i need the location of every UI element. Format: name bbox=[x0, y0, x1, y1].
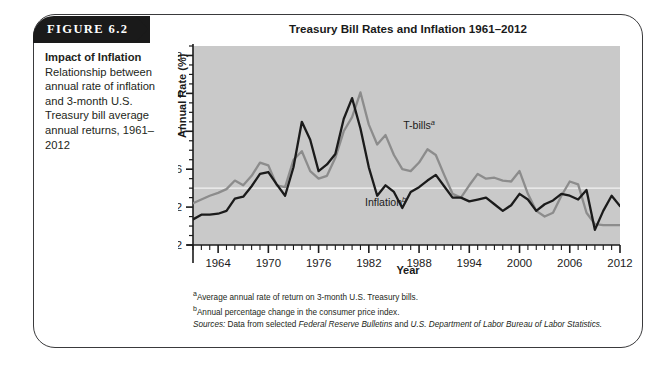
figure-number-label: FIGURE 6.2 bbox=[47, 22, 128, 37]
caption-body: Relationship between annual rate of infl… bbox=[45, 66, 155, 151]
y-axis-label: Annual Rate (%) bbox=[176, 54, 188, 138]
figure-number-banner: FIGURE 6.2 bbox=[33, 16, 150, 43]
figure-notes: aAverage annual rate of return on 3-mont… bbox=[193, 288, 625, 330]
sources-italic-1: Federal Reserve Bulletins bbox=[299, 320, 393, 329]
chart-canvas: -226101418196419701976198219881994200020… bbox=[178, 42, 633, 274]
x-axis-label: Year bbox=[193, 264, 623, 276]
chart-title: Treasury Bill Rates and Inflation 1961–2… bbox=[193, 22, 623, 35]
note-b-text: Annual percentage change in the consumer… bbox=[197, 308, 400, 317]
caption-lead: Impact of Inflation bbox=[45, 51, 141, 63]
figure-caption: Impact of Inflation Relationship between… bbox=[45, 50, 170, 152]
note-a: aAverage annual rate of return on 3-mont… bbox=[193, 288, 625, 303]
note-b: bAnnual percentage change in the consume… bbox=[193, 303, 625, 318]
sources-text-1: Data from selected bbox=[225, 320, 298, 329]
sources-label: Sources: bbox=[193, 320, 225, 329]
series-annotation-marker: b bbox=[402, 195, 406, 204]
sources-italic-2: U.S. Department of Labor Bureau of Labor… bbox=[411, 320, 603, 329]
series-annotation-inflation: Inflationb bbox=[365, 195, 406, 208]
series-annotation-marker: a bbox=[431, 118, 435, 127]
note-sources: Sources: Data from selected Federal Rese… bbox=[193, 319, 625, 331]
series-annotation-label: Inflationb bbox=[365, 195, 406, 208]
figure-banner-arrow-icon bbox=[136, 16, 148, 42]
series-annotation-t-bills: T-billsa bbox=[403, 118, 435, 131]
chart-plot-wrapper: Annual Rate (%) -22610141819641970197619… bbox=[178, 42, 633, 274]
y-axis-tick-label: -2 bbox=[178, 239, 182, 251]
y-axis-tick-label: 2 bbox=[178, 201, 182, 213]
y-axis-tick-label: 6 bbox=[178, 163, 182, 175]
sources-text-2: and bbox=[392, 320, 410, 329]
note-a-text: Average annual rate of return on 3-month… bbox=[197, 293, 418, 302]
series-annotation-label: T-billsa bbox=[403, 118, 435, 131]
plot-area-background bbox=[193, 46, 620, 245]
figure-panel: FIGURE 6.2 Impact of Inflation Relations… bbox=[0, 0, 661, 369]
